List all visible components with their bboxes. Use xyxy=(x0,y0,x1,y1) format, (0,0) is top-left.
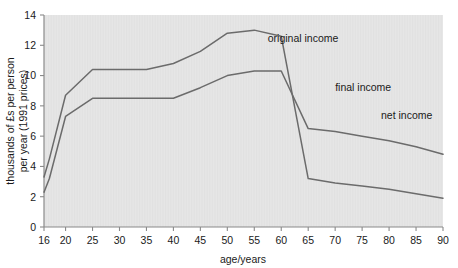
figure-container: 16202530354045505560657075808590 0246810… xyxy=(0,0,458,268)
x-tick-label: 45 xyxy=(195,234,207,246)
y-tick-label: 4 xyxy=(30,160,36,172)
y-tick-label: 12 xyxy=(24,39,36,51)
x-tick-label: 60 xyxy=(275,234,287,246)
annotation-original-income: original income xyxy=(268,32,339,44)
y-tick-label: 6 xyxy=(30,130,36,142)
x-tick-label: 85 xyxy=(410,234,422,246)
x-tick-label: 80 xyxy=(383,234,395,246)
x-tick-label: 50 xyxy=(221,234,233,246)
x-tick-label: 55 xyxy=(248,234,260,246)
x-tick-label: 75 xyxy=(356,234,368,246)
x-axis-ticks: 16202530354045505560657075808590 xyxy=(38,227,449,246)
annotation-final-income: final income xyxy=(335,81,391,93)
y-axis-title-line-2: per year (1991 prices) xyxy=(17,70,29,173)
income-by-age-line-chart: 16202530354045505560657075808590 0246810… xyxy=(0,0,458,268)
x-tick-label: 20 xyxy=(60,234,72,246)
x-tick-label: 16 xyxy=(38,234,50,246)
y-tick-label: 8 xyxy=(30,100,36,112)
x-tick-label: 35 xyxy=(141,234,153,246)
x-tick-label: 25 xyxy=(87,234,99,246)
x-axis-title: age/years xyxy=(220,253,266,265)
x-tick-label: 30 xyxy=(114,234,126,246)
x-tick-label: 70 xyxy=(329,234,341,246)
y-tick-label: 0 xyxy=(30,221,36,233)
x-tick-label: 90 xyxy=(437,234,449,246)
x-tick-label: 65 xyxy=(302,234,314,246)
y-tick-label: 2 xyxy=(30,191,36,203)
annotation-net-income: net income xyxy=(381,109,433,121)
y-tick-label: 14 xyxy=(24,9,36,21)
x-tick-label: 40 xyxy=(168,234,180,246)
y-axis-title-line-1: thousands of £s per person xyxy=(4,57,16,184)
